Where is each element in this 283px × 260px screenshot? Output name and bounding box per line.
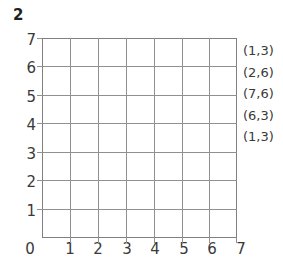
- x-axis-label-2: 2: [88, 242, 108, 257]
- figure-number: 2: [13, 7, 23, 23]
- coordinate-pair-item: (1,3): [243, 126, 283, 148]
- x-axis-label-6: 6: [202, 242, 222, 257]
- grid-hline-4: [42, 123, 237, 124]
- y-tick-mark-6: [37, 66, 42, 67]
- x-axis-label-3: 3: [117, 242, 137, 257]
- y-axis-label-5: 5: [20, 90, 36, 105]
- x-axis-label-4: 4: [145, 242, 165, 257]
- x-axis-label-7: 7: [231, 242, 251, 257]
- coordinate-pair-list: (1,3) (2,6) (7,6) (6,3) (1,3): [243, 40, 283, 148]
- x-tick-mark-3: [126, 238, 127, 243]
- coordinate-pair-item: (6,3): [243, 105, 283, 127]
- worksheet-grid-figure: 2 7 6 5 4 3 2 1 0 1 2 3 4 5 6 7: [0, 0, 283, 260]
- y-tick-mark-3: [37, 152, 42, 153]
- grid-vline-3: [126, 38, 127, 238]
- axis-origin-label: 0: [22, 242, 38, 257]
- x-tick-mark-7: [236, 238, 237, 243]
- grid-hline-6: [42, 66, 237, 67]
- y-axis-label-3: 3: [20, 147, 36, 162]
- grid-hline-2: [42, 180, 237, 181]
- y-axis-label-4: 4: [20, 118, 36, 133]
- x-axis-label-5: 5: [174, 242, 194, 257]
- y-tick-mark-1: [37, 209, 42, 210]
- coordinate-pair-item: (2,6): [243, 62, 283, 84]
- grid-hline-1: [42, 209, 237, 210]
- y-axis-label-6: 6: [20, 61, 36, 76]
- x-tick-mark-6: [209, 238, 210, 243]
- grid-vline-2: [98, 38, 99, 238]
- x-axis-label-1: 1: [60, 242, 80, 257]
- grid-hline-3: [42, 152, 237, 153]
- coordinate-grid: [42, 38, 237, 238]
- x-tick-mark-5: [182, 238, 183, 243]
- coordinate-pair-item: (7,6): [243, 83, 283, 105]
- grid-vline-6: [209, 38, 210, 238]
- y-axis-label-7: 7: [20, 33, 36, 48]
- x-tick-mark-1: [70, 238, 71, 243]
- grid-vline-4: [154, 38, 155, 238]
- y-axis-label-1: 1: [20, 204, 36, 219]
- grid-frame: [42, 38, 237, 238]
- grid-vline-5: [182, 38, 183, 238]
- coordinate-pair-item: (1,3): [243, 40, 283, 62]
- y-axis-label-2: 2: [20, 175, 36, 190]
- y-tick-mark-5: [37, 95, 42, 96]
- y-tick-mark-7: [37, 38, 42, 39]
- x-tick-mark-4: [154, 238, 155, 243]
- y-tick-mark-4: [37, 123, 42, 124]
- grid-hline-5: [42, 95, 237, 96]
- x-tick-mark-2: [98, 238, 99, 243]
- y-tick-mark-2: [37, 180, 42, 181]
- grid-vline-1: [70, 38, 71, 238]
